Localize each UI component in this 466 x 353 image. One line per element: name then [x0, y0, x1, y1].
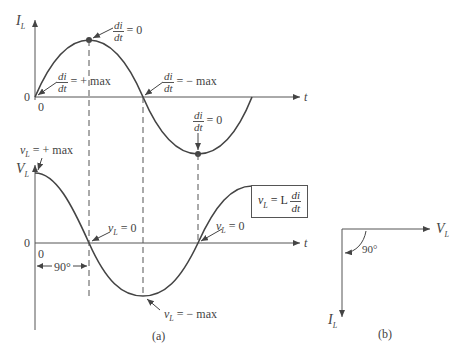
- origin-y-bottom: 0: [24, 237, 30, 249]
- waveform-diagram: [0, 0, 466, 353]
- vl-zero-annotation-1: vL = 0: [108, 222, 137, 237]
- trough-annotation: didt = 0: [193, 110, 222, 133]
- il-phasor-label: IL: [328, 313, 337, 330]
- phase-label: 90°: [52, 261, 73, 273]
- origin-y-top: 0: [24, 91, 30, 103]
- origin-x-top: 0: [38, 101, 44, 113]
- vl-axis-label: VL: [16, 162, 29, 179]
- peak-annotation: didt = 0: [113, 20, 142, 43]
- vl-zero-annotation-2: vL = 0: [216, 220, 245, 235]
- vl-min-annotation: vL = − max: [164, 308, 217, 323]
- t-label-top: t: [304, 91, 307, 103]
- start-annotation: didt = + max: [57, 71, 111, 94]
- part-a-caption: (a): [152, 330, 165, 342]
- zero-cross-annotation: didt = − max: [163, 71, 217, 94]
- part-b-caption: (b): [378, 328, 392, 340]
- vl-max-annotation: vL = + max: [20, 144, 73, 159]
- il-axis-label: IL: [16, 14, 25, 31]
- t-label-bottom: t: [304, 237, 307, 249]
- phasor-angle-label: 90°: [362, 244, 377, 255]
- formula-box: vL = L didt: [251, 185, 308, 218]
- origin-x-bottom: 0: [38, 248, 44, 260]
- vl-phasor-label: VL: [436, 222, 449, 239]
